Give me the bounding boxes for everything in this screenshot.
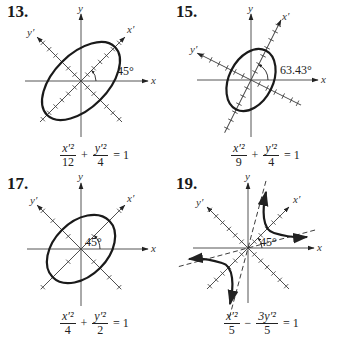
term1-denominator: 4 (63, 324, 73, 337)
term1-numerator: x′² (224, 310, 240, 324)
diagram-19: x y x′ y′ 45° (163, 163, 333, 333)
equation-19: x′²5 − 3y′²5 = 1 (222, 310, 302, 337)
equation-rhs: = 1 (283, 316, 299, 331)
term2-denominator: 5 (262, 324, 272, 337)
y-axis-label: y (247, 2, 253, 14)
y-prime-axis-label: y′ (189, 43, 198, 55)
x-axis-label: x (316, 241, 322, 253)
x-axis-label: x (320, 73, 326, 85)
y-prime-axis-label: y′ (29, 194, 38, 206)
equation-rhs: = 1 (113, 148, 129, 163)
rotated-axes (0, 0, 166, 163)
equation-15: x′²9 + y′²4 = 1 (229, 142, 303, 169)
x-prime-axis-label: x′ (126, 192, 135, 204)
y-axis-label: y (244, 170, 250, 182)
term1-denominator: 5 (227, 324, 237, 337)
equation-rhs: = 1 (284, 148, 300, 163)
equation-13: x′²12 + y′²4 = 1 (58, 142, 132, 169)
y-prime-axis-label: y′ (26, 26, 35, 38)
angle-arc (259, 65, 268, 80)
equation-17: x′²4 + y′²2 = 1 (58, 310, 132, 337)
rotated-axes (0, 161, 165, 329)
diagram-13: x y x′ y′ 45° (0, 0, 166, 163)
x-prime-axis-label: x′ (292, 193, 301, 205)
term1-numerator: x′² (60, 142, 76, 156)
term1-numerator: x′² (60, 310, 76, 324)
term1-denominator: 9 (234, 156, 244, 169)
term2-numerator: y′² (263, 142, 279, 156)
term2-numerator: 3y′² (256, 310, 278, 324)
x-prime-axis-label: x′ (126, 23, 135, 35)
x-prime-axis-label: x′ (281, 10, 290, 22)
operator: + (81, 316, 88, 331)
rotation-angle-label: 45° (260, 235, 277, 249)
term2-denominator: 4 (96, 156, 106, 169)
angle-arc (92, 70, 96, 81)
term2-denominator: 2 (95, 324, 105, 337)
operator: + (252, 148, 259, 163)
term2-denominator: 4 (266, 156, 276, 169)
term1-denominator: 12 (60, 156, 76, 169)
term2-numerator: y′² (93, 142, 109, 156)
operator: − (245, 316, 252, 331)
x-axis-label: x (150, 74, 156, 86)
y-prime-axis-label: y′ (195, 196, 204, 208)
diagram-15: x y x′ y′ 63.43° (171, 0, 331, 158)
term1-numerator: x′² (231, 142, 247, 156)
diagrams-canvas: x y x′ y′ 45° x y x′ y′ 63.43° (0, 0, 337, 347)
term2-numerator: y′² (92, 310, 108, 324)
equation-rhs: = 1 (113, 316, 129, 331)
rotation-angle-label: 45° (117, 64, 134, 78)
x-axis-label: x (150, 242, 156, 254)
diagram-17: x y x′ y′ 45° (0, 161, 165, 329)
rotation-angle-label: 63.43° (280, 63, 312, 77)
y-axis-label: y (77, 170, 83, 182)
operator: + (81, 148, 88, 163)
rotation-angle-label: 45° (85, 235, 102, 249)
y-axis-label: y (77, 2, 83, 14)
